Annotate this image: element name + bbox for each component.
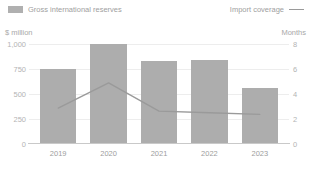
right-axis-tick-label: 2 bbox=[293, 116, 297, 124]
left-axis-unit-label: $ million bbox=[5, 28, 33, 37]
x-axis-tick-label-2022: 2022 bbox=[184, 149, 234, 158]
right-axis-unit-label: Months bbox=[281, 28, 306, 37]
legend-item-import-coverage[interactable]: Import coverage bbox=[230, 5, 304, 14]
right-axis-tick-label: 0 bbox=[293, 141, 297, 149]
x-axis-tick-label-2023: 2023 bbox=[235, 149, 285, 158]
right-axis-tick-label: 4 bbox=[293, 91, 297, 99]
chart-container: Gross international reserves Import cove… bbox=[0, 0, 312, 173]
x-axis-tick-label-2019: 2019 bbox=[33, 149, 83, 158]
plot-area: 02505007501,000 02468 bbox=[33, 44, 285, 144]
chart-legend: Gross international reserves Import cove… bbox=[0, 5, 312, 19]
bar-swatch-icon bbox=[8, 6, 23, 13]
line-series-import-coverage bbox=[33, 44, 285, 128]
left-axis-tick-label: 500 bbox=[13, 91, 26, 99]
legend-label-bar: Gross international reserves bbox=[28, 5, 122, 14]
legend-item-gross-international-reserves[interactable]: Gross international reserves bbox=[8, 5, 122, 14]
left-axis-tick-label: 250 bbox=[13, 116, 26, 124]
x-axis-labels: 20192020202120222023 bbox=[33, 149, 285, 158]
axis-baseline bbox=[28, 143, 290, 144]
left-axis-tick-label: 1,000 bbox=[7, 41, 26, 49]
left-axis-tick-label: 0 bbox=[22, 141, 26, 149]
import-coverage-line[interactable] bbox=[58, 83, 260, 115]
legend-label-line: Import coverage bbox=[230, 5, 284, 14]
right-axis-tick-label: 8 bbox=[293, 41, 297, 49]
right-axis-tick-label: 6 bbox=[293, 66, 297, 74]
x-axis-tick-label-2021: 2021 bbox=[134, 149, 184, 158]
left-axis-tick-label: 750 bbox=[13, 66, 26, 74]
x-axis-tick-label-2020: 2020 bbox=[83, 149, 133, 158]
line-swatch-icon bbox=[289, 9, 304, 10]
